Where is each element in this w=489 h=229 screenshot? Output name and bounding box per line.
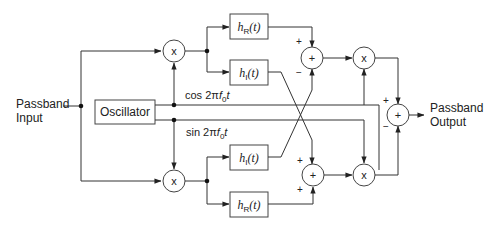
bottom-split-dot (205, 179, 210, 184)
block-diagram: Passband Input Oscillator cos 2πf0t sin … (0, 0, 489, 229)
top-summer-symbol: + (309, 52, 315, 64)
top-summer-plus-sign: + (296, 36, 302, 47)
sin-junction-dot (172, 118, 177, 123)
bottom-output-mixer-symbol: x (361, 169, 367, 181)
oscillator-label: Oscillator (100, 105, 150, 119)
filter-bottom-hI-label: hI(t) (239, 151, 259, 167)
filter-bottom-hR-label: hR(t) (237, 198, 260, 214)
sin-label: sin 2πf0t (186, 126, 228, 141)
filter-top-hI-label: hI(t) (239, 66, 259, 82)
output-label-line2: Output (430, 115, 467, 129)
cos-junction-dot (172, 103, 177, 108)
top-summer-minus-sign: − (296, 67, 302, 78)
input-junction-dot (79, 104, 84, 109)
bottom-summer-lower-sign: + (297, 184, 303, 195)
bottom-branch-wires (185, 157, 229, 204)
final-summer-symbol: + (395, 109, 401, 121)
bottom-mult-to-final-wire (375, 126, 398, 175)
input-label-line2: Input (16, 111, 43, 125)
output-label-line1: Passband (430, 101, 483, 115)
final-summer-minus-sign: − (383, 121, 389, 132)
filter-top-hR-label: hR(t) (237, 20, 260, 36)
final-summer-plus-sign: + (383, 95, 389, 106)
top-mixer-symbol: x (171, 45, 177, 57)
bottom-summer-upper-sign: + (297, 155, 303, 166)
top-branch-wires (185, 27, 229, 72)
input-label-line1: Passband (16, 97, 69, 111)
cos-label: cos 2πf0t (185, 89, 230, 104)
top-output-mixer-symbol: x (361, 52, 367, 64)
top-split-dot (205, 49, 210, 54)
bottom-summer-symbol: + (310, 169, 316, 181)
bottom-mixer-symbol: x (171, 175, 177, 187)
